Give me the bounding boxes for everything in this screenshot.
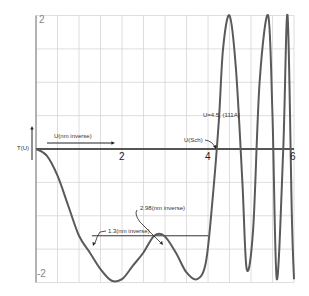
x-arrow-label: U(nm inverse)	[54, 133, 92, 139]
annotation-2-98: 2.98(nm inverse)	[140, 205, 185, 211]
annotation-1-3: 1.3(nm inverse)	[108, 228, 150, 234]
x-arrow-head-icon	[111, 141, 115, 144]
annotation-usch: U(Sch)	[184, 137, 203, 143]
annotation-u45: U=4.5, (111A)	[203, 112, 240, 118]
y-axis-title: T(U)	[17, 145, 29, 151]
x-tick-6: 6	[290, 151, 296, 162]
ann298-arrow-line	[136, 210, 160, 242]
x-tick-4: 4	[205, 151, 211, 162]
y-tick-top: 2	[39, 14, 45, 25]
x-tick-2: 2	[119, 151, 125, 162]
usch-arrow-line	[205, 140, 215, 147]
chart-canvas	[0, 0, 309, 296]
y-tick-bottom: -2	[37, 268, 46, 279]
y-arrow-head-icon	[30, 126, 33, 130]
